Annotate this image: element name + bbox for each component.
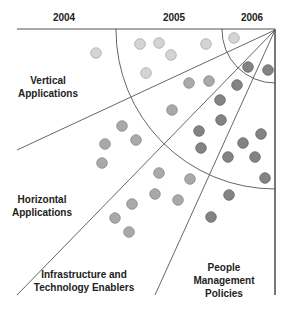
- initiative-dot-light: [229, 33, 240, 44]
- initiative-dot-light: [166, 50, 177, 61]
- initiative-dot-light: [154, 38, 165, 49]
- year-label-2006: 2006: [241, 12, 263, 23]
- segment-ray-3: [155, 30, 275, 295]
- technology-radar-diagram: 2004 2005 2006 Vertical Applications Hor…: [0, 0, 288, 309]
- initiative-dot-dark: [256, 129, 267, 140]
- initiative-dot-dark: [238, 138, 249, 149]
- year-label-2005: 2005: [163, 12, 185, 23]
- initiative-dot-dark: [223, 152, 234, 163]
- initiative-dot-medium: [124, 227, 135, 238]
- initiative-dot-medium: [150, 189, 161, 200]
- initiative-dot-light: [91, 48, 102, 59]
- initiative-dot-medium: [97, 158, 108, 169]
- initiative-dot-dark: [250, 152, 261, 163]
- initiative-dot-light: [201, 39, 212, 50]
- year-label-2004: 2004: [53, 12, 75, 23]
- initiative-dot-dark: [260, 173, 271, 184]
- initiative-dot-dark: [194, 126, 205, 137]
- initiative-dot-dark: [206, 212, 217, 223]
- initiative-dot-medium: [100, 139, 111, 150]
- segment-label-horizontal-applications: Horizontal Applications: [12, 193, 72, 219]
- initiative-dot-medium: [110, 213, 121, 224]
- initiative-dot-dark: [215, 95, 226, 106]
- initiative-dot-medium: [117, 121, 128, 132]
- initiative-dot-dark: [263, 65, 274, 76]
- initiative-dot-medium: [127, 199, 138, 210]
- segment-label-vertical-applications: Vertical Applications: [18, 74, 78, 100]
- segment-label-infrastructure-enablers: Infrastructure and Technology Enablers: [34, 268, 134, 294]
- initiative-dot-dark: [216, 115, 227, 126]
- initiative-dot-medium: [173, 195, 184, 206]
- arc-2004-2005-boundary: [116, 29, 275, 189]
- initiative-dot-light: [141, 68, 152, 79]
- year-arcs: [116, 29, 275, 189]
- initiative-dot-medium: [167, 105, 178, 116]
- initiative-dot-medium: [185, 174, 196, 185]
- initiative-dot-dark: [243, 62, 254, 73]
- initiative-dot-medium: [204, 76, 215, 87]
- initiative-dot-dark: [232, 80, 243, 91]
- initiative-dot-medium: [184, 78, 195, 89]
- initiative-dot-medium: [154, 168, 165, 179]
- initiative-dot-medium: [131, 135, 142, 146]
- initiative-dot-dark: [196, 143, 207, 154]
- initiative-dot-light: [135, 39, 146, 50]
- segment-label-people-management: People Management Policies: [193, 261, 254, 300]
- initiative-dot-dark: [224, 190, 235, 201]
- initiative-dots: [91, 33, 274, 238]
